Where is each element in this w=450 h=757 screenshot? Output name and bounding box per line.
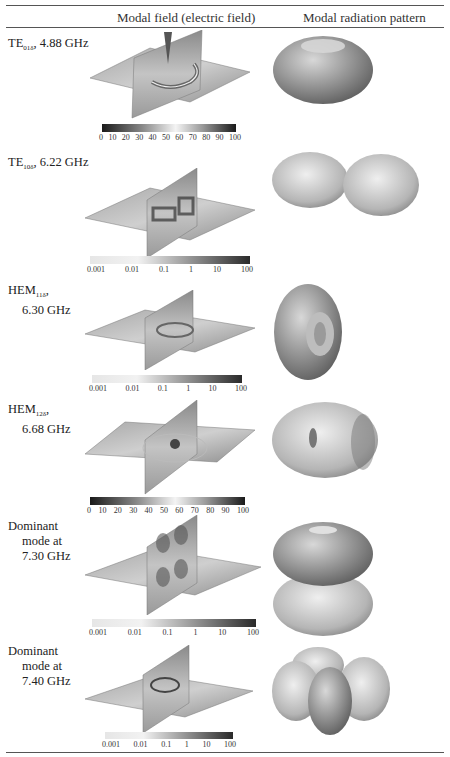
radiation-pattern-two-lobes (268, 150, 428, 220)
radiation-pattern-torus (268, 32, 378, 107)
mode-label: HEM11δ, 6.30 GHz (8, 283, 71, 318)
modal-field-plot (85, 290, 260, 370)
table-header-rule (6, 27, 444, 28)
radiation-pattern-stacked-tori (268, 520, 378, 638)
table-top-rule (6, 5, 444, 6)
column-header-modal-field: Modal field (electric field) (117, 10, 255, 26)
mode-label: TE01δ, 4.88 GHz (8, 36, 88, 56)
column-header-radiation-pattern: Modal radiation pattern (303, 10, 426, 26)
table-row-hem11d: HEM11δ, 6.30 GHz 0.001 0.01 0.1 1 10 100 (0, 280, 450, 390)
table-bottom-rule (6, 752, 444, 753)
modal-field-plot (85, 515, 265, 615)
modal-field-plot (85, 645, 255, 735)
table-row-te10d: TE10δ, 6.22 GHz 0.001 0.01 0.1 1 10 100 (0, 150, 450, 280)
mode-label: TE10δ, 6.22 GHz (8, 155, 88, 175)
mode-label: HEM12δ, 6.68 GHz (8, 402, 71, 437)
mode-label: Dominant mode at 7.30 GHz (8, 519, 71, 564)
modal-field-plot (85, 400, 260, 495)
radiation-pattern-dimpled (268, 400, 383, 485)
radiation-pattern-side-torus (270, 282, 350, 382)
table-row-dominant-740: Dominant mode at 7.40 GHz 0.001 0.01 0.1… (0, 640, 450, 752)
modal-field-plot (90, 30, 260, 120)
modal-field-plot (85, 168, 260, 258)
mode-label: Dominant mode at 7.40 GHz (8, 644, 71, 689)
table-row-dominant-730: Dominant mode at 7.30 GHz 0.001 0.01 0.1… (0, 515, 450, 640)
table-row-hem12d: HEM12δ, 6.68 GHz 0 10 20 30 40 50 60 70 … (0, 390, 450, 515)
table-row-te01d: TE01δ, 4.88 GHz 0 10 20 30 40 50 60 70 8… (0, 30, 450, 150)
radiation-pattern-four-lobes (268, 643, 393, 738)
